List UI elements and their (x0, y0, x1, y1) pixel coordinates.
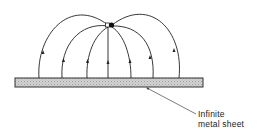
metal-sheet (15, 78, 203, 87)
field-line-outer-right (112, 14, 179, 78)
arrow-icon (129, 59, 132, 63)
field-line-left-2 (62, 26, 108, 78)
field-line-outer-left (39, 15, 108, 78)
point-charge-icon (109, 22, 114, 27)
sheet-label: Infinite metal sheet (198, 109, 244, 129)
field-line-right-2 (112, 26, 153, 78)
arrow-icon (107, 60, 110, 64)
field-line-right-3 (112, 27, 131, 78)
sheet-label-line1: Infinite (198, 109, 244, 119)
field-line-left-3 (87, 27, 108, 78)
sheet-label-line2: metal sheet (198, 119, 244, 129)
label-leader-line (147, 88, 196, 114)
arrow-icon (173, 48, 176, 52)
arrowheads (42, 48, 176, 64)
arrow-icon (62, 58, 65, 62)
